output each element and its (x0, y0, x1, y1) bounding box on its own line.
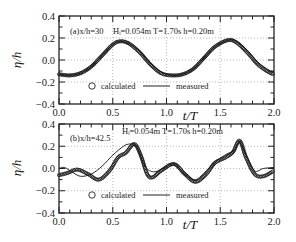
calculated-legend-icon (89, 192, 95, 198)
y-axis-title-a: η/h (9, 52, 24, 69)
x-tick-label: 0.5 (106, 107, 119, 118)
figure: (a)x/h=30 Hᵢ=0.054m T=1.70s h=0.20m calc… (0, 0, 296, 242)
y-tick-label: −0.2 (36, 185, 55, 196)
legend-measured-label-a: measured (176, 81, 209, 91)
panel-label-b: (b)x/h=42.5 (70, 133, 110, 143)
x-tick-labels-a: 0.00.51.01.52.0 (52, 107, 280, 118)
x-tick-label: 1.5 (214, 107, 227, 118)
x-tick-label: 2.0 (267, 216, 280, 227)
x-tick-label: 2.0 (267, 107, 280, 118)
x-tick-label: 0.0 (52, 216, 65, 227)
curves-b (57, 139, 274, 183)
panel-b: (b)x/h=42.5 Hᵢ=0.054m T=1.70s h=0.20m ca… (9, 119, 274, 219)
y-tick-labels-b: 0.40.20.0−0.2−0.4 (36, 119, 56, 219)
x-tick-label: 1.5 (214, 216, 227, 227)
panel-a: (a)x/h=30 Hᵢ=0.054m T=1.70s h=0.20m calc… (9, 11, 274, 110)
x-axis-title-b: t/T (183, 217, 198, 232)
x-tick-label: 0.0 (52, 107, 65, 118)
y-tick-label: 0.0 (42, 163, 55, 174)
y-tick-label: 0.2 (42, 33, 55, 44)
x-tick-label: 1.0 (160, 216, 173, 227)
panel-params-b: Hᵢ=0.054m T=1.70s h=0.20m (122, 126, 223, 136)
calculated-series (57, 38, 274, 77)
x-tick-label: 0.5 (106, 216, 119, 227)
legend-calculated-label-b: calculated (101, 190, 136, 200)
y-tick-label: 0.4 (42, 11, 56, 22)
calculated-legend-icon (89, 83, 95, 89)
panel-params-a: Hᵢ=0.054m T=1.70s h=0.20m (113, 26, 214, 36)
x-tick-labels-b: 0.00.51.01.52.0 (52, 216, 280, 227)
y-tick-label: 0.0 (42, 55, 55, 66)
y-tick-label: 0.2 (42, 141, 55, 152)
legend-b: calculated measured (89, 190, 210, 200)
panel-label-a: (a)x/h=30 (70, 26, 104, 36)
legend-calculated-label-a: calculated (101, 81, 136, 91)
legend-measured-label-b: measured (176, 190, 209, 200)
curves-a (57, 38, 274, 77)
x-axis-title-a: t/T (183, 108, 198, 123)
x-tick-label: 1.0 (160, 107, 173, 118)
y-axis-title-b: η/h (9, 160, 24, 177)
y-tick-label: 0.4 (42, 119, 56, 130)
y-tick-labels-a: 0.40.20.0−0.2−0.4 (36, 11, 56, 110)
legend-a: calculated measured (89, 81, 210, 91)
y-tick-label: −0.2 (36, 77, 55, 88)
